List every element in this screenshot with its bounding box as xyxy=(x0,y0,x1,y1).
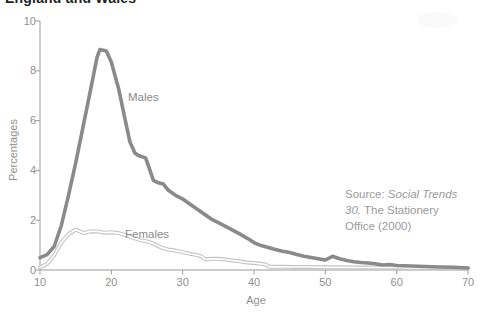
y-tick-label: 6 xyxy=(12,114,36,127)
y-tick-label: 8 xyxy=(12,64,36,77)
x-tick-label: 60 xyxy=(384,276,410,289)
x-tick-label: 20 xyxy=(98,276,124,289)
source-citation-part: Source: xyxy=(345,188,388,200)
males-series-label: Males xyxy=(128,91,159,103)
y-tick-label: 4 xyxy=(12,164,36,177)
source-citation-line: Office (2000) xyxy=(345,218,485,234)
x-axis-label: Age xyxy=(246,294,266,306)
x-tick-label: 10 xyxy=(27,276,53,289)
y-tick-label: 0 xyxy=(12,264,36,277)
females-line-core xyxy=(40,230,468,269)
source-citation-line: Source: Social Trends xyxy=(345,186,485,202)
source-citation-part: Office (2000) xyxy=(345,220,411,232)
source-citation-italic-part: Social Trends xyxy=(388,188,457,200)
females-series-label: Females xyxy=(125,228,169,240)
source-citation-italic-part: 30. xyxy=(345,204,361,216)
x-tick-label: 50 xyxy=(312,276,338,289)
y-tick-label: 10 xyxy=(12,15,36,28)
x-tick-label: 30 xyxy=(170,276,196,289)
x-tick-label: 40 xyxy=(241,276,267,289)
chart-canvas xyxy=(0,0,487,312)
source-citation-part: The Stationery xyxy=(361,204,439,216)
y-tick-label: 2 xyxy=(12,214,36,227)
source-citation-line: 30. The Stationery xyxy=(345,202,485,218)
males-line xyxy=(40,50,468,268)
x-tick-label: 70 xyxy=(455,276,481,289)
source-citation: Source: Social Trends30. The StationeryO… xyxy=(345,186,485,234)
chart-figure: England and Wales Percentages Age Males … xyxy=(0,0,487,312)
